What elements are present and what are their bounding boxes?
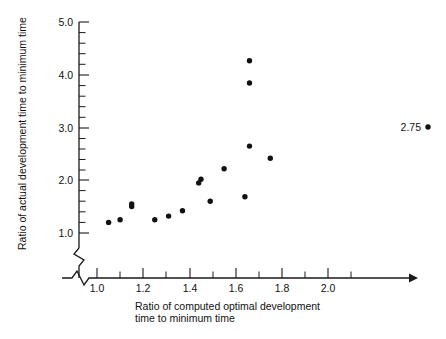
x-tick-label-4: 1.6 (229, 282, 244, 294)
y-axis: 5.0 4.0 3.0 2.0 1.0 Ratio of actual deve… (16, 16, 89, 278)
offscale-point-label: 2.75 (401, 121, 422, 133)
data-point (106, 220, 111, 225)
y-tick-label-1: 1.0 (58, 227, 73, 239)
data-point (221, 166, 226, 171)
x-axis-title-line2: time to minimum time (135, 312, 235, 324)
offscale-data-point (425, 124, 430, 129)
plot-svg: 5.0 4.0 3.0 2.0 1.0 Ratio of actual deve… (0, 0, 446, 339)
data-point (129, 201, 134, 206)
x-tick-label-1: 1.0 (90, 282, 105, 294)
data-point (208, 199, 213, 204)
x-tick-label-6: 2.0 (321, 282, 336, 294)
data-point (242, 194, 247, 199)
y-tick-label-2: 2.0 (58, 174, 73, 186)
y-tick-label-5: 5.0 (58, 16, 73, 28)
data-point (247, 58, 252, 63)
data-point (152, 217, 157, 222)
x-tick-label-5: 1.8 (275, 282, 290, 294)
data-point (180, 208, 185, 213)
data-point (166, 213, 171, 218)
x-tick-label-2: 1.2 (136, 282, 151, 294)
data-point (268, 156, 273, 161)
data-points (106, 58, 273, 225)
x-axis-arrow-icon (409, 274, 418, 283)
x-tick-label-3: 1.4 (183, 282, 198, 294)
y-tick-label-4: 4.0 (58, 69, 73, 81)
data-point (247, 80, 252, 85)
data-point (247, 143, 252, 148)
x-axis: 1.0 1.2 1.4 1.6 1.8 2.0 Ratio of compute… (62, 268, 418, 324)
x-axis-title-line1: Ratio of computed optimal development (135, 300, 320, 312)
offscale-annotation: 2.75 (401, 121, 431, 133)
scatter-plot-figure: 5.0 4.0 3.0 2.0 1.0 Ratio of actual deve… (0, 0, 446, 339)
y-tick-label-3: 3.0 (58, 122, 73, 134)
data-point (198, 177, 203, 182)
data-point (117, 217, 122, 222)
y-axis-title: Ratio of actual development time to mini… (16, 17, 28, 250)
